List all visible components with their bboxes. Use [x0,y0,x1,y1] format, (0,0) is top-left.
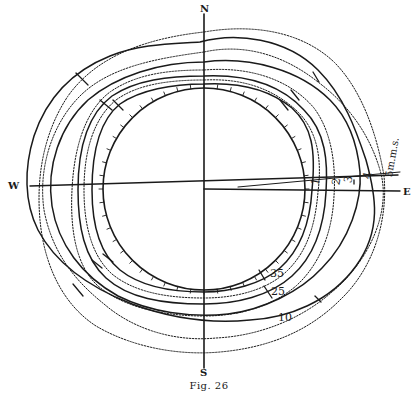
contour-label-35: 35 [270,268,284,279]
contour-diagram [0,0,418,393]
contour-label-25: 25 [271,286,285,297]
east-axis-ray [204,189,400,191]
north-label: N [200,4,209,14]
contour-label-10: 10 [278,312,292,323]
south-label: S [200,368,207,378]
contour-2 [84,80,319,298]
contour-outer-dotted [43,49,384,339]
contour-1 [92,84,313,292]
west-label: W [8,181,19,191]
contour-4 [72,69,335,316]
contour-5 [51,61,361,316]
figure-caption: Fig. 26 [0,380,418,391]
east-label: E [403,187,411,197]
